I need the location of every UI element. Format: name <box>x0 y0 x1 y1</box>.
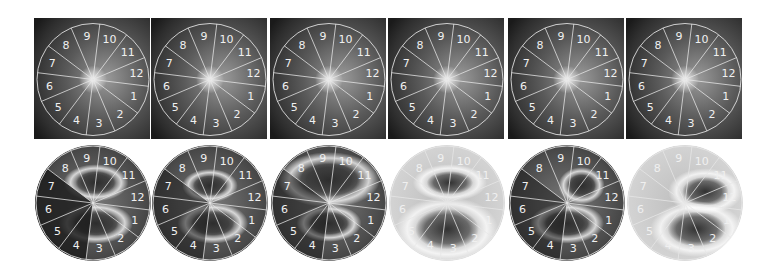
sector-label-2: 2 <box>353 108 360 121</box>
sector-label-9: 9 <box>437 30 444 43</box>
sector-label-9: 9 <box>675 152 682 165</box>
sector-label-6: 6 <box>45 203 52 216</box>
sector-label-9: 9 <box>319 152 326 165</box>
sector-label-3: 3 <box>332 117 339 130</box>
sector-label-6: 6 <box>400 80 407 93</box>
sector-label-1: 1 <box>604 90 611 103</box>
sector-label-3: 3 <box>213 117 220 130</box>
sector-label-3: 3 <box>332 242 339 255</box>
sector-label-10: 10 <box>576 33 590 46</box>
sector-label-2: 2 <box>709 232 716 245</box>
sector-label-10: 10 <box>339 155 353 168</box>
sector-label-5: 5 <box>647 101 654 114</box>
sector-label-6: 6 <box>519 203 526 216</box>
sector-label-11: 11 <box>713 169 727 182</box>
sector-label-7: 7 <box>166 57 173 70</box>
heatmap-blob <box>668 212 726 247</box>
sector-label-1: 1 <box>485 214 492 227</box>
sector-label-12: 12 <box>722 67 736 80</box>
fundus-row: 1234567891011121234567891011121234567891… <box>0 18 779 139</box>
sector-label-2: 2 <box>591 232 598 245</box>
sector-label-12: 12 <box>604 67 618 80</box>
sector-label-9: 9 <box>675 30 682 43</box>
sector-label-11: 11 <box>713 46 727 59</box>
heatmap-panel-2: 123456789101112 <box>151 141 269 263</box>
sector-label-10: 10 <box>103 155 117 168</box>
sector-label-6: 6 <box>399 203 406 216</box>
sector-label-2: 2 <box>591 108 598 121</box>
sector-label-1: 1 <box>722 90 729 103</box>
heatmap-panel-5: 123456789101112 <box>508 141 626 263</box>
sector-label-4: 4 <box>547 239 554 252</box>
sector-label-12: 12 <box>130 67 144 80</box>
sector-label-10: 10 <box>219 33 233 46</box>
sector-label-5: 5 <box>172 101 179 114</box>
sector-label-7: 7 <box>402 180 409 193</box>
heatmap-panel-1: 123456789101112 <box>34 141 152 263</box>
sector-label-8: 8 <box>654 162 661 175</box>
sector-label-7: 7 <box>523 57 530 70</box>
sector-label-11: 11 <box>238 46 252 59</box>
sector-label-8: 8 <box>416 162 423 175</box>
sector-label-7: 7 <box>49 57 56 70</box>
sector-label-8: 8 <box>179 162 186 175</box>
sector-label-8: 8 <box>654 39 661 52</box>
sector-label-6: 6 <box>638 80 645 93</box>
sector-label-12: 12 <box>367 191 381 204</box>
sector-label-6: 6 <box>281 203 288 216</box>
fundus-panel-5: 123456789101112 <box>508 18 624 139</box>
sector-label-5: 5 <box>291 101 298 114</box>
sector-label-1: 1 <box>247 90 254 103</box>
sector-label-1: 1 <box>484 90 491 103</box>
sector-label-12: 12 <box>605 191 619 204</box>
sector-label-2: 2 <box>709 108 716 121</box>
sector-label-12: 12 <box>247 67 261 80</box>
heatmap-blob <box>567 174 596 197</box>
sector-label-2: 2 <box>234 108 241 121</box>
sector-label-3: 3 <box>688 242 695 255</box>
sector-label-1: 1 <box>367 214 374 227</box>
sector-label-1: 1 <box>723 214 730 227</box>
heatmap-panel-6: 123456789101112 <box>626 141 744 263</box>
sector-label-10: 10 <box>338 33 352 46</box>
sector-label-7: 7 <box>285 57 292 70</box>
sector-label-9: 9 <box>557 152 564 165</box>
sector-label-10: 10 <box>695 155 709 168</box>
sector-label-2: 2 <box>117 108 124 121</box>
sector-label-7: 7 <box>640 180 647 193</box>
sector-label-3: 3 <box>450 242 457 255</box>
sector-label-9: 9 <box>557 30 564 43</box>
fundus-panel-3: 123456789101112 <box>270 18 386 139</box>
sector-label-4: 4 <box>665 114 672 127</box>
sector-label-5: 5 <box>290 225 297 238</box>
sector-label-12: 12 <box>485 191 499 204</box>
sector-label-11: 11 <box>121 46 135 59</box>
sector-label-8: 8 <box>62 162 69 175</box>
sector-label-10: 10 <box>102 33 116 46</box>
sector-label-7: 7 <box>641 57 648 70</box>
sector-label-4: 4 <box>190 239 197 252</box>
sector-label-4: 4 <box>427 239 434 252</box>
sector-label-11: 11 <box>475 169 489 182</box>
sector-label-3: 3 <box>213 242 220 255</box>
sector-label-2: 2 <box>117 232 124 245</box>
sector-label-4: 4 <box>309 114 316 127</box>
sector-label-11: 11 <box>357 46 371 59</box>
sector-label-7: 7 <box>403 57 410 70</box>
sector-label-1: 1 <box>248 214 255 227</box>
sector-label-6: 6 <box>520 80 527 93</box>
heatmap-panel-4: 123456789101112 <box>388 141 506 263</box>
sector-label-5: 5 <box>54 225 61 238</box>
fundus-panel-1: 123456789101112 <box>34 18 150 139</box>
sector-label-9: 9 <box>319 30 326 43</box>
sector-label-9: 9 <box>437 152 444 165</box>
sector-label-2: 2 <box>471 232 478 245</box>
sector-label-1: 1 <box>131 214 138 227</box>
heatmap-blob <box>415 209 479 250</box>
sector-label-4: 4 <box>190 114 197 127</box>
sector-label-5: 5 <box>528 225 535 238</box>
fundus-panel-2: 123456789101112 <box>151 18 267 139</box>
fundus-panel-4: 123456789101112 <box>388 18 504 139</box>
sector-label-7: 7 <box>165 180 172 193</box>
sector-label-8: 8 <box>62 39 69 52</box>
